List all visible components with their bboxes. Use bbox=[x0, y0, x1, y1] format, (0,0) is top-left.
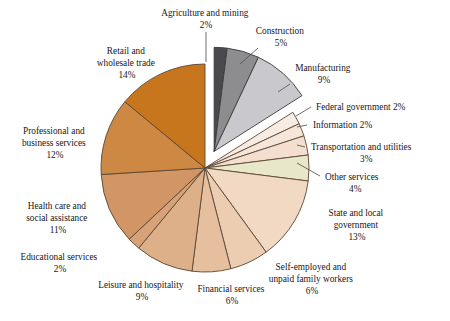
label-information: Information 2% bbox=[313, 120, 372, 130]
label-federal-government: Federal government 2% bbox=[316, 102, 406, 112]
pie-chart-svg: Agriculture and mining 2% Construction 5… bbox=[0, 0, 450, 321]
pie-chart-figure: Agriculture and mining 2% Construction 5… bbox=[0, 0, 450, 321]
